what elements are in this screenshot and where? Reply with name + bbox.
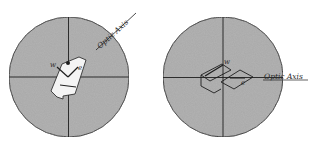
left-w-label: w	[50, 61, 56, 69]
left-diagram: Optic Axis w e	[9, 13, 136, 137]
left-center-dot	[66, 61, 70, 65]
right-optic-axis-label: Optic Axis	[264, 72, 303, 81]
optic-axis-figure: Optic Axis w e Optic Axis w e	[0, 0, 313, 149]
right-e-label: e	[241, 79, 245, 87]
right-diagram: Optic Axis w e	[163, 17, 308, 137]
right-w-label: w	[224, 58, 230, 66]
left-e-label: e	[78, 64, 82, 72]
